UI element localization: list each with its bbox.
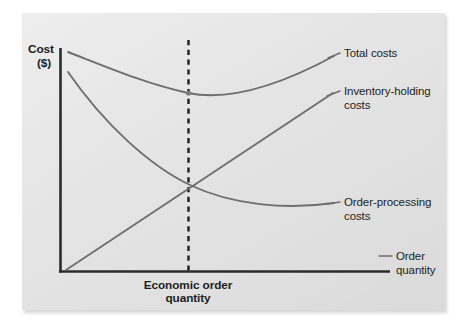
- axes-group: [59, 48, 390, 273]
- y-axis-label-line2: ($): [37, 56, 51, 70]
- eoq-chart: Cost ($) Order quantity Total costs Inve…: [0, 0, 468, 329]
- leader-line-total-costs: [328, 53, 340, 58]
- eoq-minimum-marker: [186, 90, 191, 95]
- curves-group: [66, 52, 334, 270]
- leader-line-inventory-holding: [327, 91, 340, 96]
- eoq-annotation-line1: Economic order: [144, 278, 233, 292]
- leader-lines-group: [327, 53, 392, 256]
- figure-root: Cost ($) Order quantity Total costs Inve…: [0, 0, 468, 329]
- x-axis-label-line1: Order: [396, 250, 425, 262]
- leader-line-order-processing: [327, 202, 340, 204]
- order-processing-costs-curve: [68, 72, 334, 206]
- series-label-inventory-holding-line2: costs: [344, 99, 371, 111]
- total-costs-curve: [68, 52, 334, 95]
- series-label-order-processing-line2: costs: [344, 210, 371, 222]
- series-label-order-processing-line1: Order-processing: [344, 196, 431, 208]
- series-label-total-costs: Total costs: [344, 47, 398, 59]
- series-label-inventory-holding-line1: Inventory-holding: [344, 85, 431, 97]
- y-axis-label-line1: Cost: [28, 42, 54, 56]
- x-axis-label-line2: quantity: [396, 264, 436, 276]
- eoq-annotation-line2: quantity: [165, 291, 211, 305]
